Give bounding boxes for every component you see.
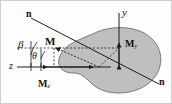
label-beta-angle: β	[18, 39, 23, 50]
label-my-component: My	[125, 39, 137, 50]
figure-container: n n y z M β θ My Mz	[0, 0, 172, 104]
label-n-top: n	[26, 9, 32, 19]
label-m-vector: M	[45, 36, 55, 47]
label-y-axis: y	[122, 7, 127, 18]
label-theta-angle: θ	[32, 51, 37, 61]
label-mz-component: Mz	[38, 79, 50, 90]
theta-angle-arc	[41, 49, 45, 67]
cross-section-blob	[59, 28, 161, 93]
label-n-bottom: n	[159, 77, 165, 87]
mz-subscript: z	[47, 82, 49, 89]
my-subscript: y	[134, 42, 137, 49]
label-z-axis: z	[9, 61, 13, 71]
